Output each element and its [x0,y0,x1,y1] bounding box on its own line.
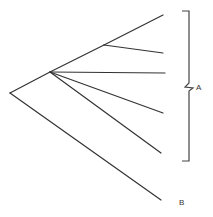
tree-branch [10,72,50,93]
tree-branch [50,45,104,72]
phylogenetic-tree: A B [0,0,213,217]
tree-branch [50,72,165,73]
label-a: A [196,83,202,92]
tree-branch [50,72,163,113]
tree-edges [10,15,165,200]
group-a-bracket [182,11,193,161]
tree-branch [50,72,161,153]
tree-branch [104,15,163,45]
tree-branch [10,93,161,200]
label-b: B [179,198,184,207]
tree-branch [104,45,163,53]
